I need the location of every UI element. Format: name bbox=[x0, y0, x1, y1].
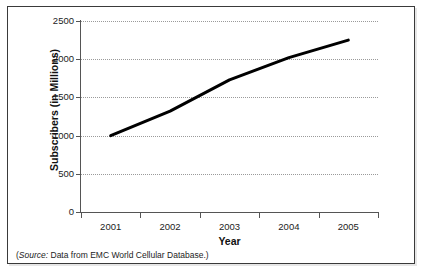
figure-container: 2500 2000 1500 1000 500 0 2001 2002 2003… bbox=[0, 0, 424, 277]
x-tick-boundary-0 bbox=[81, 213, 82, 218]
y-tick-1000 bbox=[76, 136, 81, 137]
x-axis-line bbox=[80, 212, 379, 213]
y-tick-1500 bbox=[76, 97, 81, 98]
y-axis-title: Subscribers (in Millions) bbox=[48, 20, 60, 200]
x-axis-title: Year bbox=[81, 235, 378, 247]
y-tick-2500 bbox=[76, 21, 81, 22]
y-tick-label-0: 0 bbox=[34, 207, 74, 217]
source-note: (Source: Data from EMC World Cellular Da… bbox=[16, 250, 209, 260]
x-tick-boundary-1 bbox=[140, 213, 141, 218]
plot-area bbox=[81, 21, 378, 212]
x-tick-boundary-5 bbox=[378, 213, 379, 218]
x-tick-label-2002: 2002 bbox=[140, 221, 200, 232]
y-tick-2000 bbox=[76, 59, 81, 60]
x-tick-label-2003: 2003 bbox=[200, 221, 260, 232]
x-tick-label-2004: 2004 bbox=[259, 221, 319, 232]
series-subscribers bbox=[81, 21, 378, 212]
y-axis-line bbox=[80, 20, 81, 213]
y-tick-label-holder-0: 0 bbox=[28, 207, 74, 217]
source-note-text: Data from EMC World Cellular Database.) bbox=[48, 250, 208, 260]
source-note-label: Source: bbox=[19, 250, 48, 260]
x-tick-label-2005: 2005 bbox=[318, 221, 378, 232]
x-tick-boundary-4 bbox=[319, 213, 320, 218]
x-tick-label-2001: 2001 bbox=[81, 221, 141, 232]
x-tick-boundary-2 bbox=[200, 213, 201, 218]
x-tick-boundary-3 bbox=[259, 213, 260, 218]
y-tick-500 bbox=[76, 174, 81, 175]
